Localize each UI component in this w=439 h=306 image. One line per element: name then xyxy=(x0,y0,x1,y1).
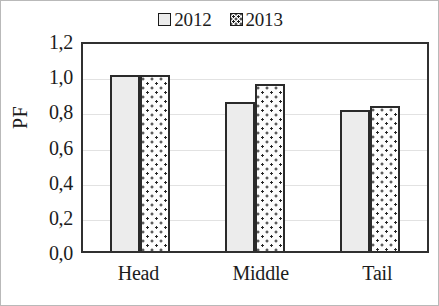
plot-area xyxy=(81,42,429,253)
y-tick-label: 1,0 xyxy=(23,67,73,87)
legend-entry-2013[interactable]: 2013 xyxy=(230,10,283,29)
bar-group-tail xyxy=(340,44,400,251)
bar-group-middle xyxy=(225,44,285,251)
x-tick-label: Middle xyxy=(232,263,289,283)
bar-2012-head[interactable] xyxy=(110,75,140,251)
y-tick-label: 0,2 xyxy=(23,208,73,228)
legend-entry-2012[interactable]: 2012 xyxy=(158,10,211,29)
chart-figure: 2012 2013 PF 1,21,00,80,60,40,20,0 HeadM… xyxy=(0,0,439,306)
x-tick-label: Head xyxy=(118,263,159,283)
y-tick-label: 1,2 xyxy=(23,32,73,52)
dotted-square-icon xyxy=(230,13,243,26)
bar-2012-tail[interactable] xyxy=(340,110,370,251)
chart-legend: 2012 2013 xyxy=(1,7,439,31)
empty-square-icon xyxy=(158,13,171,26)
bar-2013-head[interactable] xyxy=(140,75,170,251)
y-tick-label: 0,0 xyxy=(23,243,73,263)
y-tick-label: 0,6 xyxy=(23,138,73,158)
legend-label-2013: 2013 xyxy=(246,10,283,29)
x-tick-label: Tail xyxy=(362,263,392,283)
bar-group-head xyxy=(110,44,170,251)
bar-series-container xyxy=(83,44,427,251)
bar-2013-tail[interactable] xyxy=(370,106,400,251)
y-tick-label: 0,4 xyxy=(23,173,73,193)
y-tick-label: 0,8 xyxy=(23,102,73,122)
legend-label-2012: 2012 xyxy=(174,10,211,29)
x-axis-tick-labels: HeadMiddleTail xyxy=(81,263,429,293)
y-axis-tick-labels: 1,21,00,80,60,40,20,0 xyxy=(23,42,73,253)
bar-2013-middle[interactable] xyxy=(255,84,285,251)
bar-2012-middle[interactable] xyxy=(225,102,255,251)
